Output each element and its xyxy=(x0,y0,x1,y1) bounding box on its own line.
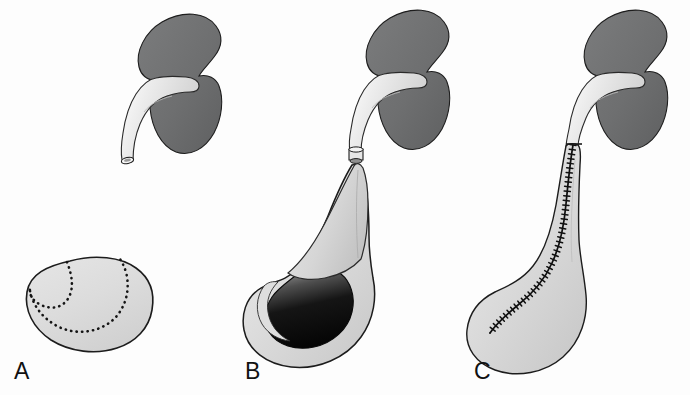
panel-label-a: A xyxy=(14,360,29,383)
suture-stitch xyxy=(565,186,571,187)
suture-stitch xyxy=(562,210,568,211)
suture-stitch xyxy=(560,223,566,224)
panel-label-b: B xyxy=(245,360,260,383)
suture-stitch xyxy=(562,214,568,215)
panel-c-illustration xyxy=(0,0,690,395)
suture-stitch xyxy=(561,219,567,220)
suture-stitch xyxy=(563,205,569,206)
suture-stitch xyxy=(564,196,570,197)
suture-stitch xyxy=(564,191,570,192)
suture-stitch xyxy=(566,177,572,178)
figure-canvas: A B C xyxy=(0,0,690,395)
suture-stitch xyxy=(565,182,571,183)
suture-stitch xyxy=(567,163,573,164)
panel-c-reconstructed-pelvis xyxy=(467,144,587,374)
suture-stitch xyxy=(567,168,573,169)
suture-stitch xyxy=(569,149,575,150)
suture-stitch xyxy=(568,158,574,159)
suture-stitch xyxy=(566,172,572,173)
suture-stitch xyxy=(569,154,575,155)
suture-stitch xyxy=(563,200,569,201)
panel-label-c: C xyxy=(474,360,491,383)
